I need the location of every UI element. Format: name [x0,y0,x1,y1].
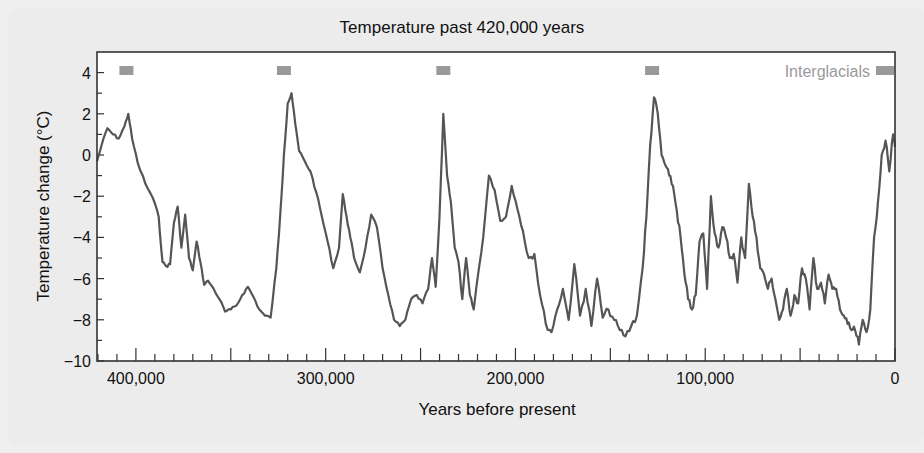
interglacial-marker [119,66,133,75]
interglacial-marker [436,66,450,75]
y-tick-label: −8 [73,312,91,329]
y-tick-label: 2 [82,106,91,123]
legend-swatch-interglacials [876,66,894,75]
x-tick-label: 200,000 [487,370,545,387]
legend-label-interglacials: Interglacials [785,63,870,80]
y-tick-label: −6 [73,271,91,288]
plot-area [97,52,895,361]
x-tick-label: 0 [891,370,900,387]
y-tick-label: −10 [64,353,91,370]
x-tick-label: 100,000 [676,370,734,387]
y-tick-label: 4 [82,65,91,82]
interglacial-marker [645,66,659,75]
x-tick-label: 400,000 [107,370,165,387]
temperature-chart: 420−2−4−6−8−10 400,000300,000200,000100,… [0,0,924,453]
y-tick-label: 0 [82,147,91,164]
interglacial-marker [277,66,291,75]
y-tick-label: −4 [73,229,91,246]
y-tick-label: −2 [73,188,91,205]
x-tick-label: 300,000 [297,370,355,387]
